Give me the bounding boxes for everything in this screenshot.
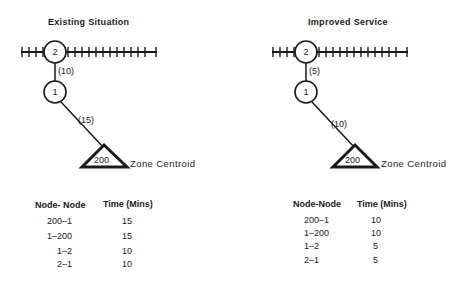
link-2-1-time: (5) <box>309 66 320 76</box>
link-2-1-time: (10) <box>58 66 74 76</box>
node-1-label: 1 <box>302 87 310 97</box>
centroid-label: 200 <box>345 155 360 165</box>
link-1-200 <box>61 102 104 148</box>
row-pair: 1–2 <box>304 241 319 251</box>
row-time: 10 <box>122 246 132 256</box>
row-time: 5 <box>373 255 378 265</box>
centroid-label: 200 <box>94 155 109 165</box>
network-diagram <box>231 0 462 284</box>
panel-title: Existing Situation <box>48 17 129 27</box>
header-time: Time (Mins) <box>357 199 407 209</box>
row-time: 10 <box>371 215 381 225</box>
row-pair: 1–200 <box>47 231 72 241</box>
rail-track <box>272 47 408 57</box>
row-pair: 200–1 <box>47 216 72 226</box>
node-2-label: 2 <box>302 47 310 57</box>
link-1-200-time: (15) <box>78 115 94 125</box>
improved-service-panel: Improved Service 2 1 (5) (10) 200 Zone C… <box>231 0 462 284</box>
node-2-label: 2 <box>51 47 59 57</box>
header-node-node: Node-Node <box>293 199 341 209</box>
link-1-200-time: (10) <box>331 119 347 129</box>
row-time: 5 <box>373 241 378 251</box>
row-time: 15 <box>122 231 132 241</box>
row-pair: 200–1 <box>304 215 329 225</box>
row-pair: 2–1 <box>304 255 319 265</box>
zone-centroid-caption: Zone Centroid <box>381 158 446 169</box>
row-time: 15 <box>122 216 132 226</box>
header-time: Time (Mins) <box>103 199 153 209</box>
row-time: 10 <box>122 259 132 269</box>
rail-track <box>21 47 157 57</box>
network-diagram <box>0 0 231 284</box>
existing-situation-panel: Existing Situation 2 1 (10) (15) 200 Zon… <box>0 0 231 284</box>
header-node-node: Node- Node <box>35 200 86 210</box>
panel-title: Improved Service <box>308 17 388 27</box>
row-pair: 1–2 <box>57 246 72 256</box>
node-1-label: 1 <box>51 87 59 97</box>
zone-centroid-caption: Zone Centroid <box>130 158 195 169</box>
row-pair: 2–1 <box>57 259 72 269</box>
row-pair: 1–200 <box>304 228 329 238</box>
row-time: 10 <box>371 228 381 238</box>
